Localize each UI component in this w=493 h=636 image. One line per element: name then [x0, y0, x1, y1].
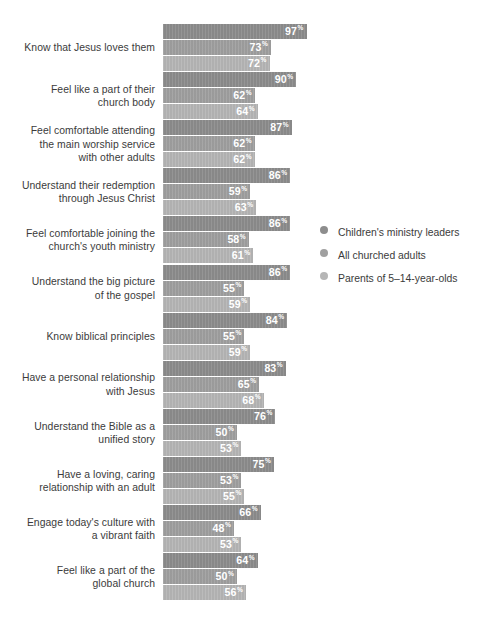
- bar-stack: 86%55%59%: [163, 265, 290, 313]
- percent-sign: %: [241, 297, 247, 304]
- category-label: Have a personal relationship with Jesus: [0, 371, 155, 397]
- bar: 50%: [163, 569, 237, 584]
- legend-color-dot: [320, 249, 328, 257]
- bar: 90%: [163, 72, 296, 87]
- category-label: Know biblical principles: [0, 330, 155, 343]
- bar: 86%: [163, 168, 290, 183]
- bar-value-label: 62%: [233, 136, 251, 151]
- bar-value-label: 75%: [253, 457, 271, 472]
- category-label: Engage today's culture with a vibrant fa…: [0, 516, 155, 542]
- percent-sign: %: [244, 249, 250, 256]
- bar: 62%: [163, 88, 255, 103]
- percent-sign: %: [247, 201, 253, 208]
- category-label: Feel comfortable attending the main wors…: [0, 124, 155, 164]
- bar: 53%: [163, 537, 241, 552]
- bar-value-label: 53%: [220, 537, 238, 552]
- percent-sign: %: [235, 281, 241, 288]
- percent-sign: %: [281, 217, 287, 224]
- percent-sign: %: [241, 345, 247, 352]
- percent-sign: %: [225, 521, 231, 528]
- bar-stack: 86%58%61%: [163, 216, 290, 264]
- percent-sign: %: [228, 425, 234, 432]
- bar: 83%: [163, 361, 286, 376]
- bar-stack: 66%48%53%: [163, 505, 261, 553]
- bar-stack: 64%50%56%: [163, 553, 258, 601]
- bar-value-label: 87%: [270, 120, 288, 135]
- percent-sign: %: [246, 137, 252, 144]
- bar-group: Understand their redemption through Jesu…: [0, 168, 493, 216]
- percent-sign: %: [246, 153, 252, 160]
- bar-group: Understand the Bible as a unified story7…: [0, 409, 493, 457]
- percent-sign: %: [232, 441, 238, 448]
- legend-label: Parents of 5–14-year-olds: [338, 273, 458, 284]
- percent-sign: %: [240, 233, 246, 240]
- bar-value-label: 66%: [239, 505, 257, 520]
- bar: 59%: [163, 345, 250, 360]
- category-label: Understand the big picture of the gospel: [0, 275, 155, 301]
- bar: 64%: [163, 104, 258, 119]
- bar-value-label: 84%: [266, 313, 284, 328]
- bar: 68%: [163, 393, 264, 408]
- bar-group: Know biblical principles84%55%59%: [0, 313, 493, 361]
- bar-value-label: 90%: [275, 72, 293, 87]
- percent-sign: %: [278, 313, 284, 320]
- bar-group: Feel like a part of the global church64%…: [0, 553, 493, 601]
- percent-sign: %: [283, 121, 289, 128]
- percent-sign: %: [277, 361, 283, 368]
- percent-sign: %: [232, 537, 238, 544]
- legend-color-dot: [320, 226, 328, 234]
- bar-group: Engage today's culture with a vibrant fa…: [0, 505, 493, 553]
- bar-value-label: 53%: [220, 473, 238, 488]
- bar-value-label: 72%: [248, 56, 266, 71]
- bar: 75%: [163, 457, 274, 472]
- bar: 65%: [163, 377, 259, 392]
- bar: 86%: [163, 216, 290, 231]
- bar: 56%: [163, 585, 246, 600]
- bar-group: Have a loving, caring relationship with …: [0, 457, 493, 505]
- grouped-bar-chart: Know that Jesus loves them97%73%72%Feel …: [0, 0, 493, 636]
- percent-sign: %: [232, 473, 238, 480]
- category-label: Feel like a part of their church body: [0, 83, 155, 109]
- bar: 63%: [163, 200, 256, 215]
- bar-value-label: 50%: [216, 569, 234, 584]
- bar-value-label: 59%: [229, 345, 247, 360]
- bar: 64%: [163, 553, 258, 568]
- bar: 76%: [163, 409, 275, 424]
- legend-item: Parents of 5–14-year-olds: [320, 268, 490, 291]
- bar: 55%: [163, 329, 244, 344]
- bar: 97%: [163, 24, 307, 39]
- bar-value-label: 53%: [220, 441, 238, 456]
- percent-sign: %: [281, 265, 287, 272]
- bar-stack: 87%62%62%: [163, 120, 292, 168]
- bar: 72%: [163, 56, 270, 71]
- bar-value-label: 59%: [229, 184, 247, 199]
- bar-stack: 76%50%53%: [163, 409, 275, 457]
- bar: 55%: [163, 281, 244, 296]
- bar-stack: 97%73%72%: [163, 24, 307, 72]
- category-label: Understand the Bible as a unified story: [0, 420, 155, 446]
- percent-sign: %: [235, 489, 241, 496]
- bar-value-label: 86%: [269, 216, 287, 231]
- chart-legend: Children's ministry leadersAll churched …: [320, 222, 490, 291]
- percent-sign: %: [281, 169, 287, 176]
- bar-value-label: 55%: [223, 281, 241, 296]
- percent-sign: %: [249, 554, 255, 561]
- bar: 61%: [163, 248, 253, 263]
- bar-group: Know that Jesus loves them97%73%72%: [0, 24, 493, 72]
- bar: 66%: [163, 505, 261, 520]
- category-label: Feel comfortable joining the church's yo…: [0, 227, 155, 253]
- percent-sign: %: [250, 377, 256, 384]
- bar-value-label: 64%: [236, 553, 254, 568]
- percent-sign: %: [246, 89, 252, 96]
- bar-value-label: 76%: [254, 409, 272, 424]
- bar-stack: 86%59%63%: [163, 168, 290, 216]
- bar: 55%: [163, 489, 244, 504]
- bar-value-label: 56%: [224, 585, 242, 600]
- percent-sign: %: [287, 73, 293, 80]
- bar-value-label: 62%: [233, 152, 251, 167]
- percent-sign: %: [235, 329, 241, 336]
- percent-sign: %: [262, 40, 268, 47]
- bar: 62%: [163, 152, 255, 167]
- bar: 86%: [163, 265, 290, 280]
- percent-sign: %: [241, 185, 247, 192]
